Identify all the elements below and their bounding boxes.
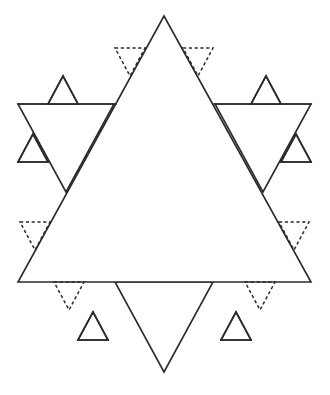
figure-canvas	[0, 0, 330, 395]
star-of-david-net-drawing	[0, 0, 330, 395]
